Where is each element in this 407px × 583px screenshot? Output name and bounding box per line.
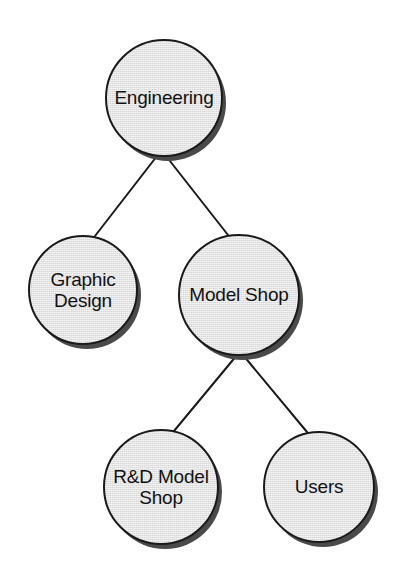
- node-users[interactable]: Users: [263, 431, 375, 543]
- diagram-canvas: Engineering Graphic Design Model Shop R&…: [0, 0, 407, 583]
- node-rd-model-shop[interactable]: R&D Model Shop: [103, 429, 219, 545]
- node-engineering-label: Engineering: [108, 87, 219, 108]
- edge-engineering-graphic-design: [95, 156, 157, 236]
- node-model-shop-label: Model Shop: [183, 284, 294, 305]
- node-graphic-design-label: Graphic Design: [44, 269, 121, 312]
- node-users-label: Users: [289, 476, 350, 497]
- edge-engineering-model-shop: [166, 156, 228, 235]
- node-graphic-design[interactable]: Graphic Design: [28, 235, 138, 345]
- node-model-shop[interactable]: Model Shop: [178, 234, 300, 356]
- node-engineering[interactable]: Engineering: [105, 39, 223, 157]
- edge-model-shop-rd-model-shop: [174, 355, 237, 431]
- node-rd-model-shop-label: R&D Model Shop: [107, 466, 214, 509]
- edge-model-shop-users: [243, 355, 307, 432]
